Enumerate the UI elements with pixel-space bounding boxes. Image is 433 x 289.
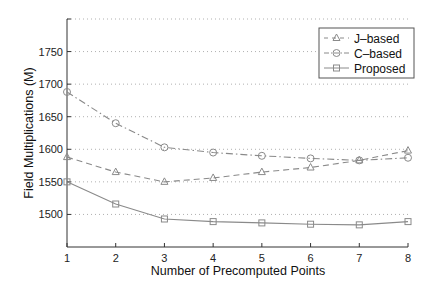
series-line [67, 151, 408, 182]
triangle-marker-icon [405, 147, 412, 154]
y-axis-label: Field Multiplications (M) [22, 67, 36, 198]
series-proposed [64, 179, 411, 228]
line-chart: 15001550160016501700175012345678 J–based… [0, 0, 433, 289]
x-tick-label: 8 [405, 252, 411, 264]
y-tick-label: 1500 [39, 208, 63, 220]
x-axis-label: Number of Precomputed Points [151, 264, 325, 278]
series-c-based [64, 88, 412, 163]
x-tick-label: 7 [356, 252, 362, 264]
legend: J–basedC–basedProposed [319, 28, 414, 78]
x-tick-label: 6 [308, 252, 314, 264]
x-tick-label: 1 [64, 252, 70, 264]
x-tick-label: 5 [259, 252, 265, 264]
y-tick-label: 1750 [39, 46, 63, 58]
y-tick-label: 1550 [39, 176, 63, 188]
data-series [64, 88, 412, 227]
x-tick-label: 4 [210, 252, 216, 264]
y-tick-label: 1650 [39, 111, 63, 123]
y-tick-label: 1600 [39, 143, 63, 155]
x-tick-label: 2 [113, 252, 119, 264]
triangle-marker-icon [112, 168, 119, 175]
circle-marker-icon [112, 120, 119, 127]
legend-entry-label: Proposed [354, 62, 405, 76]
series-line [67, 182, 408, 225]
y-tick-label: 1700 [39, 78, 63, 90]
legend-entry-label: J–based [354, 32, 399, 46]
triangle-marker-icon [161, 178, 168, 185]
legend-entry-label: C–based [354, 47, 402, 61]
series-j-based [64, 147, 412, 185]
x-tick-label: 3 [161, 252, 167, 264]
